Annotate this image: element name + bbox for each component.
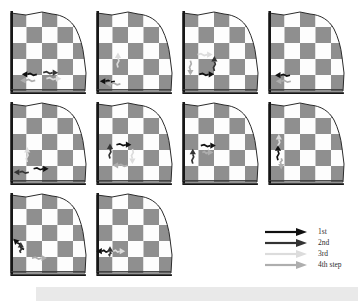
legend-label: 2nd: [318, 238, 348, 248]
legend-item-step2: 2nd: [263, 238, 348, 248]
bottom-axis-line: [11, 271, 85, 272]
legend-arrow-icon-step2: [263, 238, 309, 248]
bottom-axis-line: [97, 89, 171, 90]
bottom-axis-bar: [96, 92, 171, 94]
legend-item-step3: 3rd: [263, 249, 348, 259]
paper-figure: 1st2nd3rd4th step: [0, 0, 358, 301]
checkerboard: [11, 102, 88, 182]
board-tile-r3c1: [8, 191, 88, 277]
bottom-axis-bar: [182, 183, 258, 185]
legend-arrow-icon-step4: [263, 260, 309, 270]
left-axis-bar: [96, 11, 99, 93]
bottom-axis-bar: [96, 274, 171, 276]
board-tile-r1c1: [8, 9, 88, 95]
bottom-axis-line: [269, 89, 343, 90]
checkerboard: [97, 102, 174, 182]
board-tile-r2c4: [266, 100, 346, 186]
bottom-axis-line: [269, 180, 343, 181]
left-axis-bar: [96, 193, 99, 275]
bottom-axis-bar: [10, 92, 86, 94]
checkerboard: [97, 193, 174, 273]
left-axis-bar: [96, 102, 99, 184]
board-tile-r2c1: [8, 100, 88, 186]
bottom-axis-line: [183, 89, 257, 90]
left-axis-bar: [268, 11, 271, 93]
bottom-axis-line: [97, 180, 171, 181]
left-axis-bar: [182, 102, 185, 184]
checkerboard: [183, 102, 260, 182]
step-legend: 1st2nd3rd4th step: [263, 227, 348, 270]
left-axis-bar: [268, 102, 271, 184]
board-tile-r1c2: [94, 9, 174, 95]
board-tile-r3c2: [94, 191, 174, 277]
left-axis-bar: [10, 102, 13, 184]
left-axis-bar: [10, 193, 13, 275]
checkerboard: [183, 11, 260, 91]
board-tile-r1c4: [266, 9, 346, 95]
board-tile-r2c2: [94, 100, 174, 186]
bottom-axis-bar: [96, 183, 171, 185]
checkerboard: [11, 11, 88, 91]
checkerboard: [11, 193, 88, 273]
board-tile-r1c3: [180, 9, 260, 95]
legend-item-step1: 1st: [263, 227, 348, 237]
legend-label: 4th step: [318, 260, 348, 270]
bottom-axis-bar: [10, 183, 86, 185]
legend-arrow-icon-step3: [263, 249, 309, 259]
bottom-strip: [36, 287, 358, 301]
legend-label: 3rd: [318, 249, 348, 259]
left-axis-bar: [10, 11, 13, 93]
legend-label: 1st: [318, 227, 348, 237]
bottom-axis-bar: [268, 183, 344, 185]
bottom-axis-line: [11, 180, 85, 181]
bottom-axis-line: [97, 271, 171, 272]
checkerboard: [269, 102, 346, 182]
bottom-axis-line: [11, 89, 85, 90]
bottom-axis-bar: [10, 274, 86, 276]
left-axis-bar: [182, 11, 185, 93]
bottom-axis-line: [183, 180, 257, 181]
board-tile-r2c3: [180, 100, 260, 186]
bottom-axis-bar: [182, 92, 258, 94]
bottom-axis-bar: [268, 92, 344, 94]
legend-item-step4: 4th step: [263, 260, 348, 270]
legend-arrow-icon-step1: [263, 227, 309, 237]
checkerboard: [97, 11, 174, 91]
